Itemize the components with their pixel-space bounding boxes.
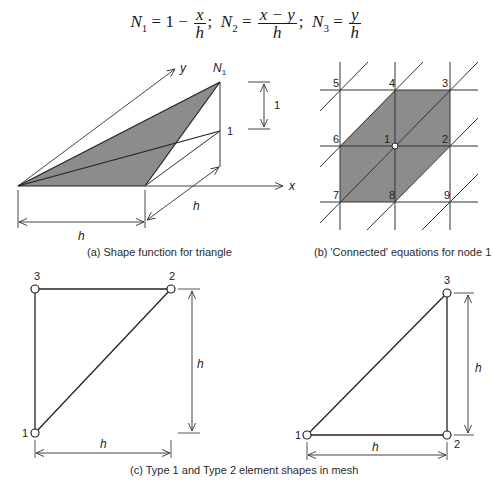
h-dimension-diagonal [147,167,219,220]
node-1-marker [392,143,398,149]
peak-label-main: N [213,61,222,75]
peak-label: N1 [213,61,227,77]
panel-a-shape-function [18,69,283,228]
type2-node-3-label: 3 [444,274,450,286]
type2-h-vertical-label: h [475,361,482,375]
node-label-4: 4 [389,77,395,89]
panel-b-node-grid [320,62,478,230]
caption-panel-c: (c) Type 1 and Type 2 element shapes in … [130,464,358,476]
h-label-diagonal: h [193,199,200,213]
node-label-5: 5 [333,77,339,89]
unit-height-label: 1 [274,99,280,111]
type2-node-2-label: 2 [454,438,460,450]
x-axis-label: x [288,179,296,193]
node-label-3: 3 [442,77,448,89]
caption-panel-a: (a) Shape function for triangle [87,246,232,258]
node-2-circle [167,285,175,293]
node-label-8: 8 [389,189,395,201]
type1-node-2-label: 2 [169,270,175,282]
unit-node-label: 1 [227,125,233,137]
panel-c-type2-element [303,289,474,460]
panel-c-type1-element [31,285,200,458]
type1-node-1-label: 1 [22,427,28,439]
type1-node-3-label: 3 [34,270,40,282]
node-3-circle [443,289,451,297]
edge-1-3 [307,293,447,435]
node-label-6: 6 [333,133,339,145]
type2-node-1-label: 1 [295,429,301,441]
peak-label-sub: 1 [222,68,227,77]
h-label-bottom: h [78,229,85,243]
node-label-1: 1 [384,133,390,145]
shape-function-surface [18,82,220,186]
node-label-2: 2 [442,133,448,145]
type2-h-horizontal-label: h [372,440,379,454]
type1-h-horizontal-label: h [100,437,107,451]
node-1-circle [31,429,39,437]
y-axis-label: y [179,61,187,75]
node-3-circle [31,285,39,293]
type1-h-vertical-label: h [197,357,204,371]
node-label-7: 7 [333,189,339,201]
edge-1-2 [35,289,171,433]
caption-panel-b: (b) 'Connected' equations for node 1 [314,246,491,258]
node-1-circle [303,431,311,439]
grid-diagonal [320,62,368,111]
node-label-9: 9 [444,189,450,201]
node-2-circle [443,431,451,439]
